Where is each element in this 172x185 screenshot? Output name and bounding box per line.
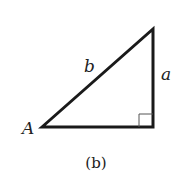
side-a-label: a [161,64,171,84]
hypotenuse-label: b [84,56,95,76]
triangle-shape [42,29,153,127]
figure-caption: (b) [85,154,106,172]
vertex-label-a-angle: A [20,118,34,138]
right-angle-marker [139,114,153,127]
right-triangle-diagram: A b a (b) [0,0,172,185]
